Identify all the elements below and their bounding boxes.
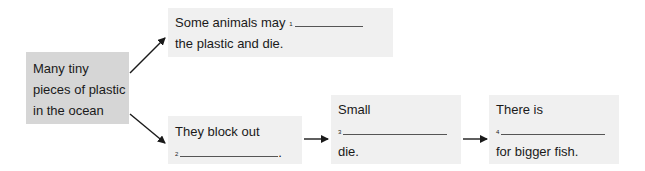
answer-blank-1[interactable] — [295, 12, 363, 27]
box4-line3: for bigger fish. — [496, 141, 619, 162]
source-box: Many tiny pieces of plastic in the ocean — [26, 52, 129, 124]
arrow-to-box1 — [130, 38, 165, 73]
box3-line1: Small — [338, 99, 461, 120]
source-line: in the ocean — [33, 100, 129, 121]
box2-period: . — [278, 145, 282, 160]
blank-number-2: 2 — [175, 151, 178, 157]
answer-blank-2[interactable] — [180, 142, 278, 157]
box2-line1: They block out — [175, 121, 302, 142]
answer-box-2: They block out 2. — [168, 116, 302, 164]
blank-number-1: 1 — [289, 21, 292, 27]
answer-box-4: There is 4 for bigger fish. — [489, 95, 619, 164]
answer-box-1: Some animals may 1 the plastic and die. — [168, 8, 393, 57]
answer-blank-4[interactable] — [501, 120, 605, 135]
box1-suffix: the plastic and die. — [175, 33, 393, 54]
blank-number-4: 4 — [496, 129, 499, 135]
box4-line1: There is — [496, 99, 619, 120]
answer-blank-3[interactable] — [343, 120, 447, 135]
source-line: pieces of plastic — [33, 79, 129, 100]
source-line: Many tiny — [33, 58, 129, 79]
box3-line3: die. — [338, 141, 461, 162]
answer-box-3: Small 3 die. — [331, 95, 461, 164]
box1-prefix: Some animals may — [175, 15, 286, 30]
blank-number-3: 3 — [338, 129, 341, 135]
arrow-to-box2 — [130, 114, 165, 143]
